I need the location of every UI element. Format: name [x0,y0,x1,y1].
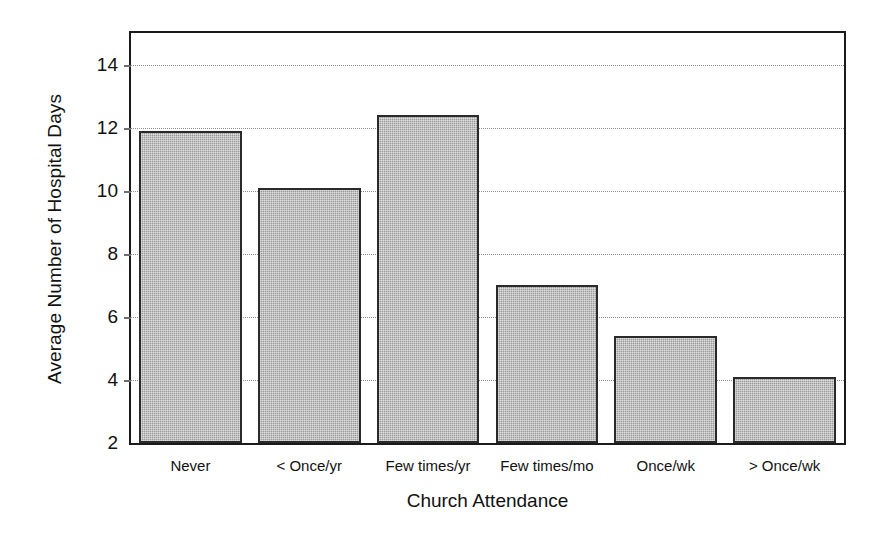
plot-area: 1412108642Never< Once/yrFew times/yrFew … [129,31,846,445]
x-axis-tick-label: < Once/yr [277,457,342,474]
x-axis-tick-label: Once/wk [637,457,695,474]
y-axis-tick-label: 2 [107,432,118,454]
y-axis-tick-mark [124,317,131,319]
y-axis-tick-label: 8 [107,243,118,265]
y-axis-tick-mark [124,128,131,130]
bar [377,115,480,443]
y-axis-tick-mark [124,191,131,193]
x-axis-tick-label: > Once/wk [749,457,820,474]
gridline [131,65,844,66]
y-axis-tick-label: 4 [107,369,118,391]
bar [258,188,361,443]
y-axis-tick-label: 12 [97,117,118,139]
y-axis-tick-mark [124,380,131,382]
y-axis-tick-mark [124,254,131,256]
y-axis-tick-label: 14 [97,54,118,76]
x-axis-tick-label: Never [170,457,210,474]
bar [496,285,599,443]
y-axis-tick-label: 6 [107,306,118,328]
x-axis-title: Church Attendance [129,490,846,512]
bar [733,377,836,443]
gridline [131,128,844,129]
bar-chart-figure: Average Number of Hospital Days 14121086… [0,0,882,538]
y-axis-tick-mark [124,65,131,67]
y-axis-tick-label: 10 [97,180,118,202]
x-axis-tick-label: Few times/mo [500,457,593,474]
y-axis-title: Average Number of Hospital Days [44,29,66,449]
bar [614,336,717,443]
x-axis-tick-label: Few times/yr [386,457,471,474]
bar [139,131,242,443]
